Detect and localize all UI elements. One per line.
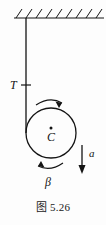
figure-caption: 图 5.26: [0, 198, 106, 214]
physics-diagram: T C β a: [0, 0, 106, 200]
label-tension: T: [10, 78, 18, 92]
clockwise-arc-arrow-icon: [38, 161, 63, 168]
down-arrow-icon: [79, 145, 86, 174]
label-center: C: [47, 130, 56, 144]
label-angular-beta: β: [44, 175, 51, 189]
figure-container: T C β a 图 5.26: [0, 0, 106, 225]
clockwise-arc-arrow-icon: [36, 100, 62, 108]
label-acceleration: a: [89, 147, 95, 159]
hatched-ceiling-icon: [14, 9, 104, 18]
